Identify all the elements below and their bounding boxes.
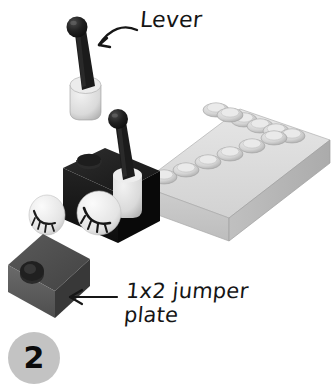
part-jumper-plate — [8, 234, 90, 318]
mounted-eye-tile — [77, 191, 121, 235]
black-brick-stud — [77, 154, 101, 169]
jumper-callout-arrow — [70, 290, 117, 304]
lever-callout-label: Lever — [139, 8, 203, 33]
jumper-plate-stud — [20, 261, 44, 284]
jumper-label-line-1: 1x2 jumper — [125, 279, 249, 303]
lego-scene-illustration — [0, 0, 335, 390]
jumper-label-line-2: plate — [123, 303, 179, 327]
instruction-diagram: Lever 1x2 jumperplate 2 — [0, 0, 335, 390]
lever-callout-arrow — [99, 27, 137, 47]
part-gray-brick-2x6 — [139, 103, 330, 241]
step-number-badge: 2 — [8, 332, 60, 384]
part-eye-tile-loose — [29, 195, 65, 235]
jumper-plate-callout-label: 1x2 jumperplate — [123, 280, 249, 327]
part-black-bracket-brick — [63, 109, 160, 243]
part-lever-loose — [67, 17, 102, 121]
